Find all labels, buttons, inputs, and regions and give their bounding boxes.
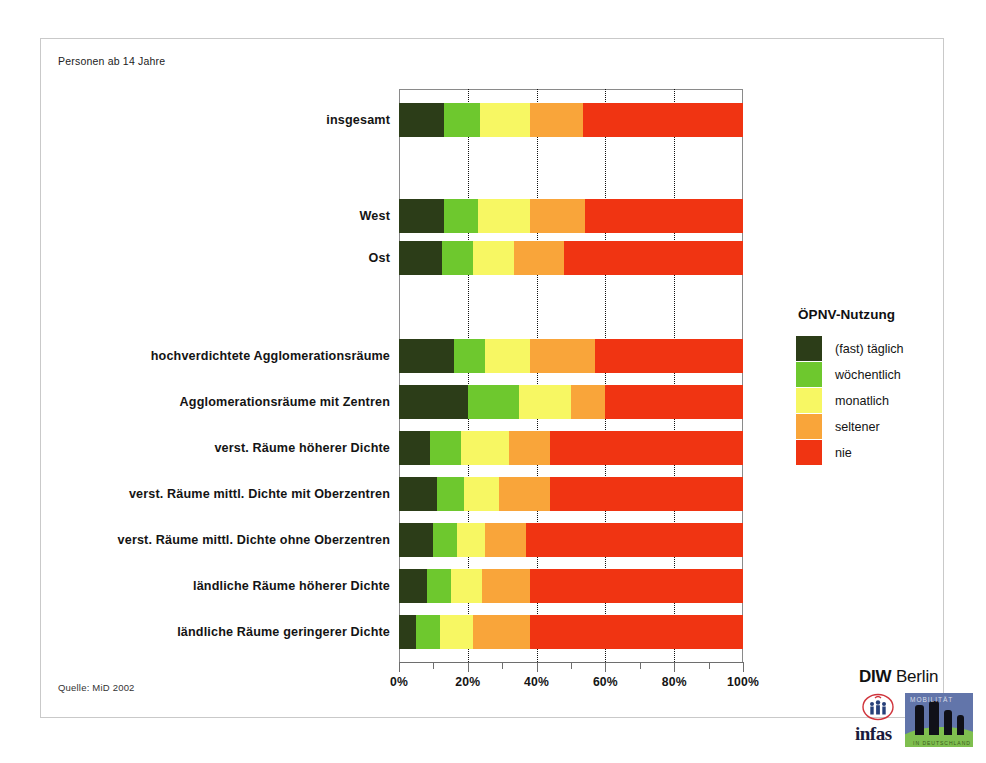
legend-label: wöchentlich <box>835 368 901 382</box>
bar-row[interactable]: insgesamt <box>399 103 743 137</box>
bar-row[interactable]: Ost <box>399 241 743 275</box>
bar-segment[interactable] <box>478 199 530 233</box>
bar-segment[interactable] <box>583 103 743 137</box>
legend-item[interactable]: (fast) täglich <box>796 336 946 361</box>
legend: ÖPNV-Nutzung (fast) täglichwöchentlichmo… <box>796 307 946 466</box>
legend-item[interactable]: seltener <box>796 414 946 439</box>
tile-person-4 <box>957 715 964 735</box>
legend-item[interactable]: nie <box>796 440 946 465</box>
infas-wordmark: infas <box>855 723 892 745</box>
bar-row[interactable]: hochverdichtete Agglomerationsräume <box>399 339 743 373</box>
mobilitaet-in-deutschland-tile: MOBILITÄT IN DEUTSCHLAND <box>905 693 973 747</box>
x-tick-label: 100% <box>727 675 759 689</box>
bar-segment[interactable] <box>427 569 451 603</box>
bar-segment[interactable] <box>464 477 498 511</box>
bar-segment[interactable] <box>605 385 743 419</box>
bar-segment[interactable] <box>526 523 743 557</box>
bar-segment[interactable] <box>482 569 530 603</box>
bar-segment[interactable] <box>461 431 509 465</box>
bar-segment[interactable] <box>564 241 743 275</box>
bar-segment[interactable] <box>530 339 595 373</box>
bar-segment[interactable] <box>550 431 743 465</box>
bar-segment[interactable] <box>399 339 454 373</box>
bar-segment[interactable] <box>473 615 530 649</box>
x-tick-80 <box>674 662 675 672</box>
bar-segment[interactable] <box>399 385 468 419</box>
bar-row[interactable]: Agglomerationsräume mit Zentren <box>399 385 743 419</box>
bar-segment[interactable] <box>440 615 473 649</box>
bar-segment[interactable] <box>595 339 743 373</box>
bar-row[interactable]: ländliche Räume höherer Dichte <box>399 569 743 603</box>
bar-segment[interactable] <box>399 431 430 465</box>
bar-segment[interactable] <box>444 199 478 233</box>
category-label: verst. Räume mittl. Dichte ohne Oberzent… <box>118 533 390 547</box>
bar-segment[interactable] <box>399 569 427 603</box>
bar-segment[interactable] <box>585 199 743 233</box>
chart-figure: Personen ab 14 Jahre insgesamtWestOsthoc… <box>40 38 944 718</box>
bar-row[interactable]: ländliche Räume geringerer Dichte <box>399 615 743 649</box>
bar-row[interactable]: West <box>399 199 743 233</box>
bar-segment[interactable] <box>473 241 514 275</box>
legend-label: seltener <box>835 420 880 434</box>
bar-series-container: insgesamtWestOsthochverdichtete Agglomer… <box>399 89 743 662</box>
bar-segment[interactable] <box>457 523 485 557</box>
bar-row[interactable]: verst. Räume höherer Dichte <box>399 431 743 465</box>
bar-segment[interactable] <box>444 103 480 137</box>
bar-segment[interactable] <box>399 615 416 649</box>
diw-berlin-wordmark: DIW Berlin <box>859 667 938 687</box>
x-tick-20 <box>468 662 469 672</box>
bar-segment[interactable] <box>519 385 571 419</box>
tile-person-3 <box>944 710 952 735</box>
infas-people-circle-icon <box>861 693 895 721</box>
bar-segment[interactable] <box>430 431 461 465</box>
x-tick-60 <box>605 662 606 672</box>
bar-row[interactable]: verst. Räume mittl. Dichte ohne Oberzent… <box>399 523 743 557</box>
x-axis: 0%20%40%60%80%100% <box>399 662 743 702</box>
legend-label: nie <box>835 446 852 460</box>
source-note: Quelle: MiD 2002 <box>58 682 135 693</box>
bar-segment[interactable] <box>399 477 437 511</box>
bar-row[interactable]: verst. Räume mittl. Dichte mit Oberzentr… <box>399 477 743 511</box>
bar-segment[interactable] <box>399 199 444 233</box>
bar-segment[interactable] <box>530 569 743 603</box>
bar-segment[interactable] <box>530 103 583 137</box>
bar-segment[interactable] <box>530 615 743 649</box>
x-tick-label: 60% <box>593 675 618 689</box>
bar-segment[interactable] <box>399 241 442 275</box>
bar-segment[interactable] <box>399 103 444 137</box>
category-label: Agglomerationsräume mit Zentren <box>180 395 390 409</box>
subject-note: Personen ab 14 Jahre <box>58 55 165 67</box>
bar-segment[interactable] <box>433 523 457 557</box>
plot-area: insgesamtWestOsthochverdichtete Agglomer… <box>399 89 743 662</box>
category-label: Ost <box>369 251 390 265</box>
x-tick-label: 0% <box>390 675 408 689</box>
bar-segment[interactable] <box>454 339 485 373</box>
legend-item[interactable]: wöchentlich <box>796 362 946 387</box>
diw-berlin-logo: DIW Berlin infas MOBILITÄT IN DEUTSCHLAN… <box>853 667 975 749</box>
bar-segment[interactable] <box>416 615 440 649</box>
bar-segment[interactable] <box>468 385 520 419</box>
x-tick-50 <box>571 662 572 669</box>
tile-person-2 <box>929 701 939 735</box>
bar-segment[interactable] <box>571 385 605 419</box>
category-label: insgesamt <box>326 113 390 127</box>
tile-bottom-word: IN DEUTSCHLAND <box>913 740 971 746</box>
tile-top-word: MOBILITÄT <box>910 696 953 703</box>
x-tick-100 <box>743 662 744 672</box>
legend-item[interactable]: monatlich <box>796 388 946 413</box>
bar-segment[interactable] <box>509 431 550 465</box>
bar-segment[interactable] <box>485 523 526 557</box>
x-tick-label: 20% <box>455 675 480 689</box>
bar-segment[interactable] <box>514 241 564 275</box>
legend-swatch <box>796 388 822 413</box>
bar-segment[interactable] <box>451 569 482 603</box>
bar-segment[interactable] <box>480 103 530 137</box>
bar-segment[interactable] <box>442 241 473 275</box>
bar-segment[interactable] <box>530 199 585 233</box>
bar-segment[interactable] <box>550 477 743 511</box>
bar-segment[interactable] <box>499 477 551 511</box>
bar-segment[interactable] <box>399 523 433 557</box>
bar-segment[interactable] <box>485 339 530 373</box>
x-tick-0 <box>399 662 400 672</box>
bar-segment[interactable] <box>437 477 465 511</box>
